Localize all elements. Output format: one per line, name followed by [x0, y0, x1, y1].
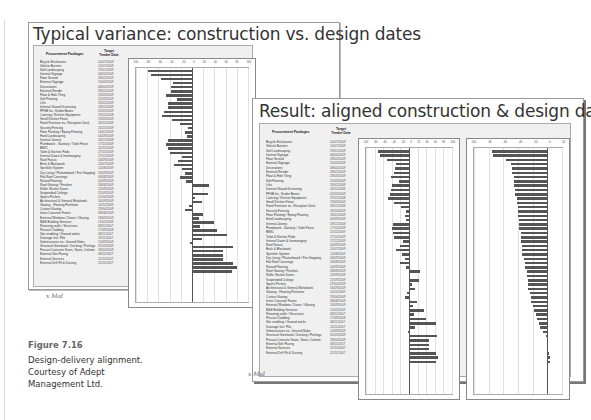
x-tick-label: 100: [247, 60, 251, 65]
variance-bar: [409, 318, 426, 321]
variance-bar: [162, 115, 192, 118]
variance-bar: [409, 275, 410, 278]
variance-bar: [391, 189, 409, 192]
variance-bar: [192, 258, 223, 261]
x-tick-label: -100: [133, 60, 138, 65]
variance-chart: -100-80-60-40-20020406080100: [128, 58, 256, 308]
variance-bar: [171, 86, 192, 89]
target-date: 22/11/2007: [98, 261, 113, 265]
variance-bar: [547, 344, 548, 347]
package-table: Procurement Packages Target Tender Date …: [259, 123, 571, 377]
variance-bar: [392, 184, 409, 187]
variance-bar: [517, 202, 548, 205]
variance-bar: [405, 296, 409, 299]
variance-bar: [518, 206, 547, 209]
variance-bar: [409, 344, 429, 347]
variance-bar: [192, 193, 208, 196]
caption-line: Design-delivery alignment.: [28, 354, 143, 366]
variance-bar: [393, 223, 409, 226]
variance-bar: [192, 238, 202, 241]
gridline: [366, 148, 367, 394]
variance-bar: [401, 206, 409, 209]
variance-bar: [192, 234, 227, 237]
variance-bar: [391, 176, 409, 179]
variance-bar: [189, 205, 192, 208]
variance-bar: [521, 236, 547, 239]
variance-bar: [192, 217, 199, 220]
variance-bar: [192, 250, 223, 253]
variance-bar: [409, 288, 415, 291]
watermark: x Mal: [248, 370, 265, 377]
target-date: 22/11/2007: [330, 351, 345, 355]
gridline: [136, 68, 137, 302]
variance-bar: [380, 154, 409, 157]
variance-bar: [536, 313, 548, 316]
variance-bar: [393, 232, 409, 235]
gridline: [237, 68, 238, 302]
column-header-target-date: Target Tender Date: [330, 127, 352, 135]
variance-bar: [514, 176, 548, 179]
figure-number: Figure 7.16: [28, 340, 143, 350]
variance-bar: [172, 119, 192, 122]
variance-bar: [528, 279, 547, 282]
x-tick-label: -40: [392, 140, 396, 145]
variance-bar: [192, 254, 223, 257]
x-tick-label: -20: [534, 140, 538, 145]
variance-bar: [171, 90, 192, 93]
variance-bar: [407, 292, 409, 295]
column-header-target-date: Target Tender Date: [98, 49, 120, 57]
plot-area: [135, 67, 249, 303]
variance-bar: [396, 249, 409, 252]
variance-bar: [168, 147, 192, 150]
variance-bar: [547, 356, 549, 359]
page-margin-rule: [4, 20, 5, 420]
variance-bar: [409, 348, 429, 351]
variance-bar: [409, 270, 420, 273]
variance-bar: [394, 202, 409, 205]
x-tick-label: -60: [383, 140, 387, 145]
variance-bar: [192, 270, 232, 273]
variance-bar: [394, 236, 409, 239]
variance-bar: [518, 210, 547, 213]
variance-bar: [540, 326, 547, 329]
variance-bar: [400, 262, 409, 265]
variance-bar: [151, 74, 192, 77]
variance-bar: [192, 262, 233, 265]
variance-bar: [409, 309, 424, 312]
x-tick-label: -100: [363, 140, 368, 145]
variance-bar: [168, 106, 192, 109]
gridline: [489, 148, 490, 394]
variance-bar: [506, 159, 547, 162]
gridline: [474, 148, 475, 394]
variance-bar: [493, 154, 547, 157]
variance-bar: [519, 219, 547, 222]
x-tick-label: 20: [417, 140, 420, 145]
variance-bar: [406, 210, 409, 213]
variance-bar: [395, 167, 409, 170]
package-name: External Drill Pit & Ducting: [40, 261, 98, 265]
variance-bar: [192, 246, 233, 249]
variance-bar: [180, 123, 192, 126]
x-tick-label: -20: [401, 140, 405, 145]
variance-bar: [525, 266, 547, 269]
variance-bar: [394, 172, 409, 175]
variance-bar: [409, 352, 436, 355]
variance-bar: [514, 180, 548, 183]
gridline: [452, 148, 453, 394]
gridline: [383, 148, 384, 394]
variance-bar: [185, 172, 192, 175]
x-tick-label: 80: [442, 140, 445, 145]
variance-bar: [537, 318, 547, 321]
variance-bar: [192, 213, 203, 216]
variance-bar: [388, 197, 409, 200]
variance-bar: [515, 193, 547, 196]
variance-bar: [515, 189, 547, 192]
gridline: [147, 68, 148, 302]
slide-title: Result: aligned construction & design da…: [259, 101, 591, 121]
variance-bar: [409, 283, 412, 286]
variance-bar: [530, 292, 548, 295]
x-tick-label: -60: [158, 60, 162, 65]
x-tick-label: -80: [146, 60, 150, 65]
x-tick-label: 100: [451, 140, 455, 145]
variance-bar: [192, 197, 195, 200]
